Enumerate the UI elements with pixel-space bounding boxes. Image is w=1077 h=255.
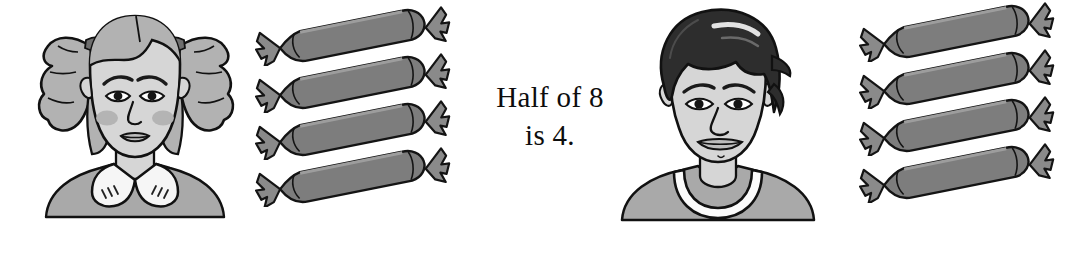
girl-illustration (28, 2, 243, 222)
candy-wrapper-end-right (423, 7, 451, 44)
candy-wrapper-end-right (1027, 3, 1055, 40)
candy-wrapper-end-right (423, 148, 451, 185)
candy-wrapper-end-left (254, 171, 282, 207)
girl-figure (28, 2, 243, 222)
candy-wrapper-end-right (1027, 144, 1055, 181)
candy-body (277, 149, 427, 205)
candy-wrapper-end-right (1027, 97, 1055, 134)
girl-cheek-left (96, 111, 118, 126)
girl-eye-right (140, 92, 164, 102)
candy-group-girl (245, 4, 460, 214)
boy-illustration (602, 0, 834, 222)
girl-cheek-right (152, 111, 174, 126)
candy-wrapper-end-right (423, 101, 451, 138)
candy-item (849, 141, 1064, 203)
illustration-canvas: Half of 8 is 4. (0, 0, 1077, 255)
candy-group-boy (849, 0, 1064, 210)
candy-wrapper-end-left (858, 167, 886, 203)
candy-body (881, 145, 1031, 201)
boy-eye-left (686, 99, 713, 110)
boy-figure (602, 0, 834, 222)
candy-item (245, 145, 460, 207)
candy-wrapper-end-right (1027, 50, 1055, 87)
candy-wrapper-end-right (423, 54, 451, 91)
girl-eye-left (106, 92, 130, 102)
boy-eye-right (725, 99, 752, 110)
